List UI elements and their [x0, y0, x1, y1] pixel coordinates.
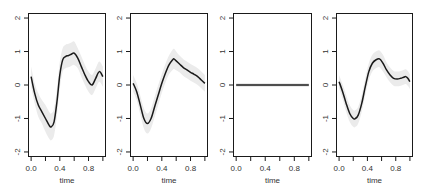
x-axis-label: time	[367, 176, 383, 185]
panel-1: 0.00.40.8time-2-1012	[13, 14, 106, 186]
panel-4: 0.00.40.8time-2-1012	[321, 14, 413, 186]
y-axis: -2-1012	[321, 15, 336, 155]
x-axis: 0.00.40.8time	[231, 157, 309, 185]
y-tick-label: -1	[218, 114, 227, 122]
y-tick-label: 1	[13, 49, 22, 54]
confidence-band	[339, 50, 410, 127]
y-tick-label: 0	[218, 82, 227, 87]
y-tick-label: 2	[13, 15, 22, 20]
y-tick-label: 2	[321, 15, 330, 20]
y-tick-label: -2	[13, 148, 22, 156]
figure: 0.00.40.8time-2-10120.00.40.8time-2-1012…	[0, 0, 423, 187]
x-tick-label: 0.0	[334, 164, 346, 173]
y-tick-label: 2	[115, 15, 124, 20]
y-tick-label: -1	[321, 114, 330, 122]
x-axis-label: time	[161, 176, 177, 185]
panel-2: 0.00.40.8time-2-1012	[115, 14, 208, 186]
y-tick-label: -1	[13, 114, 22, 122]
confidence-band	[133, 49, 205, 134]
x-tick-label: 0.4	[260, 164, 272, 173]
y-tick-label: 1	[218, 49, 227, 54]
y-tick-label: 1	[115, 49, 124, 54]
panel-3: 0.00.40.8time-2-1012	[218, 14, 312, 186]
y-axis: -2-1012	[115, 15, 130, 155]
y-tick-label: 0	[13, 82, 22, 87]
x-axis: 0.00.40.8time	[26, 157, 103, 185]
y-axis: -2-1012	[218, 15, 233, 155]
x-tick-label: 0.0	[128, 164, 140, 173]
y-tick-label: 2	[218, 15, 227, 20]
small-multiples-chart: 0.00.40.8time-2-10120.00.40.8time-2-1012…	[0, 0, 423, 187]
x-tick-label: 0.8	[289, 164, 301, 173]
y-tick-label: -1	[115, 114, 124, 122]
x-tick-label: 0.8	[185, 164, 197, 173]
x-axis: 0.00.40.8time	[128, 157, 205, 185]
y-tick-label: 1	[321, 49, 330, 54]
y-axis: -2-1012	[13, 15, 28, 155]
y-tick-label: -2	[218, 148, 227, 156]
plot-area	[31, 41, 103, 140]
y-tick-label: 0	[321, 82, 330, 87]
x-axis: 0.00.40.8time	[334, 157, 410, 185]
plot-frame	[131, 14, 208, 157]
y-tick-label: -2	[115, 148, 124, 156]
x-tick-label: 0.4	[54, 164, 66, 173]
y-tick-label: -2	[321, 148, 330, 156]
plot-area	[236, 83, 309, 87]
plot-area	[339, 50, 410, 127]
x-axis-label: time	[265, 176, 281, 185]
plot-area	[133, 49, 205, 134]
x-tick-label: 0.8	[390, 164, 402, 173]
x-tick-label: 0.0	[26, 164, 38, 173]
x-tick-label: 0.4	[362, 164, 374, 173]
x-tick-label: 0.0	[231, 164, 243, 173]
y-tick-label: 0	[115, 82, 124, 87]
x-tick-label: 0.8	[83, 164, 95, 173]
x-tick-label: 0.4	[156, 164, 168, 173]
x-axis-label: time	[59, 176, 75, 185]
